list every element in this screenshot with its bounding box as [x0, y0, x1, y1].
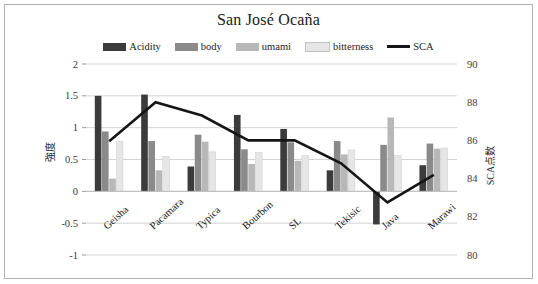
bar-tekisic-body[interactable]: [334, 141, 341, 191]
y-axis-left-tick: 1: [73, 122, 78, 133]
y-axis-left: 21.510.50-0.5-1: [61, 59, 86, 261]
bar-java-umami[interactable]: [387, 117, 394, 191]
bar-pacamara-bitterness[interactable]: [163, 156, 170, 191]
y-axis-left-tick: 2: [73, 59, 78, 70]
bar-typica-body[interactable]: [195, 135, 202, 192]
bar-pacamara-body[interactable]: [148, 141, 155, 191]
x-axis-label-java[interactable]: Java: [379, 211, 400, 232]
y-axis-left-tick: 0.5: [65, 154, 78, 165]
x-axis-label-pacamara[interactable]: Pacamara: [148, 196, 186, 232]
y-axis-right-title: SCA点数: [484, 146, 496, 185]
bar-bourbon-body[interactable]: [241, 149, 248, 191]
x-axis-label-sl[interactable]: SL: [287, 215, 303, 231]
bar-bourbon-umami[interactable]: [248, 164, 255, 191]
bar-sl-umami[interactable]: [295, 161, 302, 192]
bar-geisha-acidity[interactable]: [95, 96, 102, 192]
y-axis-right-tick: 80: [467, 250, 478, 261]
bar-marawi-body[interactable]: [427, 144, 434, 192]
bar-sl-body[interactable]: [288, 142, 295, 191]
x-axis-categories: GeishaPacamaraTypicaBourbonSLTekisicJava…: [101, 196, 457, 232]
plot-svg: 21.510.50-0.5-1908886848280強度SCA点数Geisha…: [5, 5, 534, 280]
y-axis-right-tick: 84: [467, 173, 478, 184]
bar-java-bitterness[interactable]: [395, 156, 402, 192]
bar-sl-bitterness[interactable]: [302, 156, 309, 192]
bar-marawi-umami[interactable]: [434, 149, 441, 192]
bar-java-body[interactable]: [380, 145, 387, 191]
y-axis-left-tick: -1: [69, 250, 78, 261]
bar-typica-bitterness[interactable]: [209, 152, 216, 191]
y-axis-right: 908886848280: [467, 59, 478, 261]
y-axis-right-tick: 90: [467, 59, 478, 70]
bar-tekisic-acidity[interactable]: [327, 170, 334, 191]
bar-marawi-acidity[interactable]: [419, 165, 426, 191]
bar-tekisic-umami[interactable]: [341, 154, 348, 191]
bar-marawi-bitterness[interactable]: [441, 148, 448, 191]
plot-area: 21.510.50-0.5-1908886848280強度SCA点数Geisha…: [5, 5, 532, 278]
y-axis-left-tick: 0: [73, 186, 78, 197]
x-axis-label-bourbon[interactable]: Bourbon: [240, 198, 275, 231]
bar-typica-acidity[interactable]: [188, 167, 195, 192]
chart-frame: San José Ocaña Aciditybodyumamibitternes…: [4, 4, 533, 279]
y-axis-left-title: 強度: [44, 142, 56, 162]
x-axis-label-geisha[interactable]: Geisha: [101, 204, 130, 232]
bar-geisha-umami[interactable]: [109, 179, 116, 192]
bar-bourbon-acidity[interactable]: [234, 115, 241, 191]
bar-sl-acidity[interactable]: [280, 129, 287, 191]
bar-pacamara-umami[interactable]: [156, 170, 163, 191]
y-axis-right-tick: 88: [467, 97, 478, 108]
bar-bourbon-bitterness[interactable]: [256, 153, 263, 192]
x-axis-label-tekisic[interactable]: Tekisic: [333, 203, 363, 232]
y-axis-left-tick: 1.5: [65, 90, 78, 101]
bar-geisha-body[interactable]: [102, 131, 109, 191]
y-axis-right-tick: 82: [467, 211, 478, 222]
bar-typica-umami[interactable]: [202, 142, 209, 192]
x-axis-label-marawi[interactable]: Marawi: [426, 201, 458, 231]
x-axis-label-typica[interactable]: Typica: [194, 204, 223, 231]
y-axis-right-tick: 86: [467, 135, 478, 146]
bar-geisha-bitterness[interactable]: [116, 142, 123, 192]
y-axis-left-tick: -0.5: [61, 218, 78, 229]
